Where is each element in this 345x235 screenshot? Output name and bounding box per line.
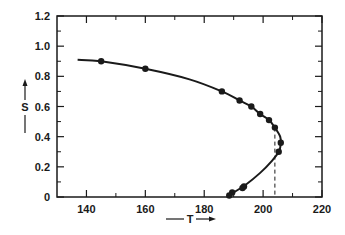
x-tick-label: 200 (254, 203, 272, 215)
data-point-marker (278, 140, 284, 146)
y-tick-label: 1.0 (35, 40, 50, 52)
right-arrow-icon (209, 217, 216, 222)
data-point-marker (257, 111, 263, 117)
data-point-marker (219, 88, 225, 94)
x-axis-label: T (187, 213, 194, 225)
fitted-curve (78, 60, 281, 197)
x-axis-ticks (86, 16, 322, 197)
data-point-marker (98, 58, 104, 64)
y-tick-label: 0.2 (35, 161, 50, 173)
data-point-marker (276, 149, 282, 155)
data-point-marker (272, 124, 278, 130)
y-tick-label: 1.2 (35, 10, 50, 22)
data-point-marker (226, 192, 232, 198)
y-axis-label-group: S (21, 79, 28, 133)
y-axis-ticks (57, 16, 322, 197)
y-tick-label: 0.6 (35, 101, 50, 113)
data-point-marker (266, 117, 272, 123)
up-arrow-icon (23, 79, 28, 86)
y-tick-label: 0 (44, 191, 50, 203)
x-tick-label: 140 (77, 203, 95, 215)
y-tick-label: 0.8 (35, 70, 50, 82)
chart: 140160180200220 00.20.40.60.81.01.2 S T (0, 0, 345, 235)
x-axis-tick-labels: 140160180200220 (77, 203, 331, 215)
plot-border (57, 16, 322, 197)
x-tick-label: 180 (195, 203, 213, 215)
y-axis-label: S (21, 101, 28, 113)
data-point-marker (142, 66, 148, 72)
data-point-marker (236, 97, 242, 103)
plot-frame (57, 16, 322, 197)
y-tick-label: 0.4 (35, 131, 51, 143)
data-point-marker (248, 103, 254, 109)
x-tick-label: 220 (313, 203, 331, 215)
data-point-marker (239, 185, 245, 191)
x-tick-label: 160 (136, 203, 154, 215)
y-axis-tick-labels: 00.20.40.60.81.01.2 (35, 10, 51, 203)
